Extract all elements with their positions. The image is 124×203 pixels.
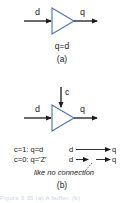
input-label-a: d <box>35 7 40 17</box>
from-c0: d <box>69 155 73 164</box>
caption-b: (b) <box>57 180 68 190</box>
from-c1: d <box>69 145 73 154</box>
buffer-diagram: d q q=d (a) c d q c=1: q=d d q c=0: q='Z… <box>0 0 124 203</box>
equation-a: q=d <box>55 41 70 51</box>
buffer-a: d q q=d (a) <box>24 7 97 64</box>
input-label-b: d <box>35 104 40 114</box>
tristate-buffer-b: c d q c=1: q=d d q c=0: q='Z' d q like n… <box>14 87 116 190</box>
buffer-triangle-a <box>52 8 74 34</box>
to-c0: q <box>112 155 116 164</box>
condition-c1: c=1: q=d <box>14 145 43 154</box>
buffer-triangle-b <box>52 105 74 131</box>
control-label: c <box>65 87 70 97</box>
to-c1: q <box>112 145 116 154</box>
output-label-a: q <box>80 7 85 17</box>
output-label-b: q <box>80 104 85 114</box>
annotation-text: like no connection <box>34 168 94 177</box>
figure-caption: Figure 3.35 (a) A buffer. (b) <box>0 195 124 201</box>
condition-c0: c=0: q='Z' <box>14 155 47 164</box>
caption-a: (a) <box>57 54 68 64</box>
